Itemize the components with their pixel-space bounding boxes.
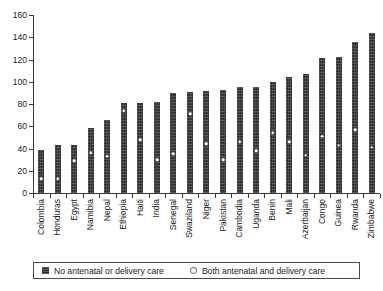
x-axis-label: Namibia xyxy=(86,199,95,230)
bar-group xyxy=(66,15,83,193)
bar-group xyxy=(50,15,67,193)
data-point-marker xyxy=(369,145,374,150)
bar-group xyxy=(264,15,281,193)
x-axis-label: Uganda xyxy=(252,199,261,229)
x-axis-tick-mark xyxy=(83,194,84,198)
bar xyxy=(369,33,375,193)
x-axis-tick-mark xyxy=(363,194,364,198)
x-axis-tick-mark xyxy=(66,194,67,198)
x-axis-tick-mark xyxy=(330,194,331,198)
x-axis-tick-mark xyxy=(215,194,216,198)
data-point-marker xyxy=(138,137,143,142)
bar xyxy=(303,74,309,193)
legend-item-both-care: Both antenatal and delivery care xyxy=(190,266,325,276)
x-axis-tick-mark xyxy=(116,194,117,198)
bar xyxy=(270,82,276,193)
bar xyxy=(187,92,193,193)
data-point-marker xyxy=(171,152,176,157)
x-axis-tick-mark xyxy=(99,194,100,198)
bar-series-container xyxy=(33,15,380,193)
bar xyxy=(121,103,127,193)
x-axis-label: Mali xyxy=(285,199,294,215)
data-point-marker xyxy=(204,142,209,147)
x-axis-label: Ethiopia xyxy=(119,199,128,230)
data-point-marker xyxy=(336,143,341,148)
bar xyxy=(38,150,44,193)
data-point-marker xyxy=(188,112,193,117)
bar xyxy=(154,102,160,193)
bar-group xyxy=(83,15,100,193)
bar-group xyxy=(149,15,166,193)
data-point-marker xyxy=(237,140,242,145)
y-axis-tick-label: 0 xyxy=(22,189,27,198)
x-axis-tick-mark xyxy=(149,194,150,198)
chart-legend: No antenatal or delivery care Both anten… xyxy=(33,262,360,279)
x-axis-tick-mark xyxy=(314,194,315,198)
x-axis-label: Rwanda xyxy=(351,199,360,230)
bar-group xyxy=(231,15,248,193)
bar xyxy=(137,103,143,193)
bar-group xyxy=(198,15,215,193)
x-axis-label: Swaziland xyxy=(185,199,194,238)
bar xyxy=(336,57,342,193)
bar xyxy=(286,77,292,193)
filled-square-icon xyxy=(42,267,49,274)
x-axis-label: Congo xyxy=(318,199,327,224)
bar xyxy=(55,145,61,193)
data-point-marker xyxy=(254,148,259,153)
data-point-marker xyxy=(89,151,94,156)
data-point-marker xyxy=(55,176,60,181)
bar-group xyxy=(330,15,347,193)
data-point-marker xyxy=(353,127,358,132)
data-point-marker xyxy=(105,154,110,159)
x-axis-tick-mark xyxy=(297,194,298,198)
x-axis-tick-mark xyxy=(182,194,183,198)
data-point-marker xyxy=(320,134,325,139)
bar-group xyxy=(314,15,331,193)
bar-group xyxy=(281,15,298,193)
x-axis-label: Niger xyxy=(202,199,211,219)
bar-group xyxy=(347,15,364,193)
bar-group xyxy=(165,15,182,193)
bar-group xyxy=(215,15,232,193)
y-axis-tick-label: 60 xyxy=(18,122,27,131)
x-axis-tick-mark xyxy=(347,194,348,198)
data-point-marker xyxy=(72,158,77,163)
legend-item-no-care: No antenatal or delivery care xyxy=(42,266,164,276)
bar-group xyxy=(297,15,314,193)
x-axis-label: Nepal xyxy=(103,199,112,221)
bar xyxy=(220,90,226,193)
x-axis-tick-mark xyxy=(281,194,282,198)
bar-group xyxy=(116,15,133,193)
x-axis-label: Honduras xyxy=(53,199,62,236)
x-axis-label: Pakistan xyxy=(219,199,228,232)
bar-group xyxy=(99,15,116,193)
x-axis-tick-mark xyxy=(248,194,249,198)
bar xyxy=(170,93,176,193)
bar xyxy=(253,87,259,193)
x-axis-tick-mark xyxy=(33,194,34,198)
x-axis-tick-mark xyxy=(380,194,381,198)
y-axis-tick-label: 100 xyxy=(13,78,27,87)
legend-label-no-care: No antenatal or delivery care xyxy=(54,266,164,276)
x-axis-label: Guinea xyxy=(334,199,343,226)
x-axis-tick-mark xyxy=(50,194,51,198)
data-point-marker xyxy=(122,108,127,113)
x-axis-label: Benin xyxy=(268,199,277,221)
y-axis-tick-label: 120 xyxy=(13,55,27,64)
bar-group xyxy=(33,15,50,193)
x-axis-label: Egypt xyxy=(70,199,79,221)
data-point-marker xyxy=(303,153,308,158)
bar-group xyxy=(132,15,149,193)
y-axis-tick-label: 20 xyxy=(18,167,27,176)
x-axis-label: Cambodia xyxy=(235,199,244,238)
bar xyxy=(352,42,358,193)
x-axis-tick-mark xyxy=(231,194,232,198)
x-axis-tick-mark xyxy=(132,194,133,198)
x-axis-label: India xyxy=(152,199,161,217)
bar xyxy=(319,58,325,193)
y-axis-tick-label: 160 xyxy=(13,11,27,20)
bar-group xyxy=(182,15,199,193)
data-point-marker xyxy=(155,157,160,162)
data-point-marker xyxy=(221,157,226,162)
